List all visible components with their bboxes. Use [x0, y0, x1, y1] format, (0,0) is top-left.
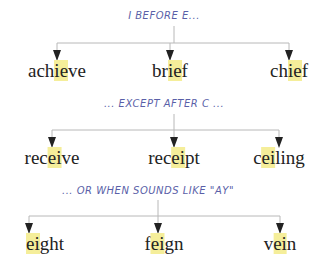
group-title-3: ... OR WHEN SOUNDS LIKE "AY" [0, 185, 312, 196]
connector-lines [0, 0, 328, 264]
word-eight: eight [26, 233, 64, 255]
word-achieve: achieve [28, 60, 86, 82]
word-brief: brief [152, 60, 188, 82]
group-title-1: I BEFORE E... [0, 10, 328, 21]
word-ceiling: ceiling [253, 147, 305, 169]
word-receipt: receipt [148, 147, 200, 169]
word-chief: chief [270, 60, 308, 82]
word-feign: feign [144, 233, 183, 255]
group-title-2: ... EXCEPT AFTER C ... [0, 98, 328, 109]
word-vein: vein [264, 233, 297, 255]
word-receive: receive [25, 147, 80, 169]
